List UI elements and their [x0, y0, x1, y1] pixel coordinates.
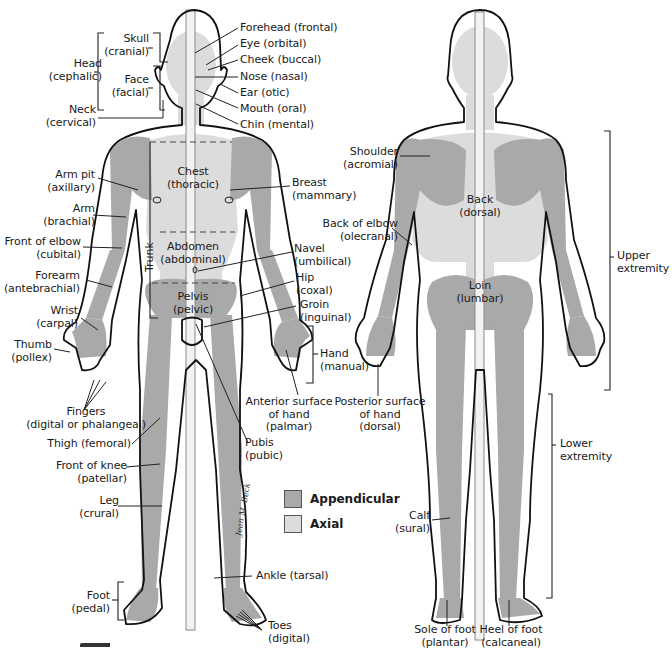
label-heel: Heel of foot (calcaneal)	[476, 624, 546, 649]
label-groin-sub: (inguinal)	[300, 312, 351, 325]
label-sole-title: Sole of foot	[410, 624, 480, 637]
label-abdomen-sub: (abdominal)	[158, 254, 228, 267]
label-upper-extremity-sub: extremity	[617, 263, 669, 276]
legend: Appendicular Axial	[284, 490, 400, 540]
label-leg-title: Leg	[79, 495, 119, 508]
label-arm: Arm (brachial)	[43, 203, 95, 228]
label-heel-title: Heel of foot	[476, 624, 546, 637]
label-forearm-sub: (antebrachial)	[4, 283, 80, 296]
label-pelvis-sub: (pelvic)	[163, 304, 223, 317]
label-hand-title: Hand	[320, 348, 369, 361]
label-hip-title: Hip	[296, 272, 333, 285]
label-hip: Hip (coxal)	[296, 272, 333, 297]
label-front-knee-sub: (patellar)	[56, 473, 127, 486]
label-lower-extremity-title: Lower	[560, 438, 612, 451]
label-head: Head (cephalic)	[49, 58, 102, 83]
label-face-title: Face	[112, 74, 149, 87]
label-pelvis-title: Pelvis	[163, 291, 223, 304]
label-fingers-title: Fingers	[26, 406, 146, 419]
label-leg-sub: (crural)	[79, 508, 119, 521]
label-leg: Leg (crural)	[79, 495, 119, 520]
label-calf-title: Calf	[395, 510, 430, 523]
label-eye: Eye (orbital)	[240, 38, 306, 51]
label-foot-sub: (pedal)	[72, 603, 110, 616]
label-pubis-title: Pubis	[245, 437, 283, 450]
figures-artwork: .app { fill: #a9a9a9; } .ax { fill: #dcd…	[0, 0, 672, 651]
label-front-elbow-title: Front of elbow	[4, 236, 81, 249]
label-arm-sub: (brachial)	[43, 216, 95, 229]
label-face-sub: (facial)	[112, 87, 149, 100]
label-front-elbow-sub: (cubital)	[4, 249, 81, 262]
label-calf: Calf (sural)	[395, 510, 430, 535]
label-pelvis: Pelvis (pelvic)	[163, 291, 223, 316]
label-foot: Foot (pedal)	[72, 590, 110, 615]
label-forearm-title: Forearm	[4, 270, 80, 283]
label-anterior-hand: Anterior surface of hand (palmar)	[244, 396, 334, 434]
label-front-elbow: Front of elbow (cubital)	[4, 236, 81, 261]
label-back-elbow-title: Back of elbow	[322, 218, 398, 231]
label-breast-sub: (mammary)	[292, 190, 356, 203]
label-breast: Breast (mammary)	[292, 177, 356, 202]
label-fingers: Fingers (digital or phalangeal)	[26, 406, 146, 431]
legend-label-axial: Axial	[310, 517, 343, 531]
label-abdomen-title: Abdomen	[158, 241, 228, 254]
label-armpit-sub: (axillary)	[47, 182, 95, 195]
posterior-figure	[356, 10, 605, 640]
label-head-sub: (cephalic)	[49, 71, 102, 84]
label-ankle: Ankle (tarsal)	[256, 570, 328, 583]
body-regions-diagram: .app { fill: #a9a9a9; } .ax { fill: #dcd…	[0, 0, 672, 651]
appendicular-swatch	[284, 490, 302, 508]
label-sole: Sole of foot (plantar)	[410, 624, 480, 649]
label-thumb-title: Thumb	[11, 339, 52, 352]
label-fingers-sub: (digital or phalangeal)	[26, 419, 146, 432]
label-abdomen: Abdomen (abdominal)	[158, 241, 228, 266]
label-neck-sub: (cervical)	[46, 117, 96, 130]
publisher-logo-icon	[80, 643, 110, 647]
label-pubis-sub: (pubic)	[245, 450, 283, 463]
label-loin-sub: (lumbar)	[450, 293, 510, 306]
label-nose: Nose (nasal)	[240, 71, 308, 84]
legend-item-axial: Axial	[284, 515, 400, 533]
label-wrist: Wrist (carpal)	[36, 305, 78, 330]
label-back: Back (dorsal)	[450, 194, 510, 219]
label-hand: Hand (manual)	[320, 348, 369, 373]
label-face: Face (facial)	[112, 74, 149, 99]
label-ear: Ear (otic)	[240, 87, 289, 100]
label-forearm: Forearm (antebrachial)	[4, 270, 80, 295]
label-loin-title: Loin	[450, 280, 510, 293]
label-forehead: Forehead (frontal)	[240, 22, 337, 35]
label-mouth: Mouth (oral)	[240, 103, 306, 116]
label-navel: Navel (umbilical)	[294, 243, 351, 268]
label-thumb: Thumb (pollex)	[11, 339, 52, 364]
label-skull-sub: (cranial)	[104, 46, 149, 59]
label-toes: Toes (digital)	[268, 620, 310, 645]
label-loin: Loin (lumbar)	[450, 280, 510, 305]
label-foot-title: Foot	[72, 590, 110, 603]
label-posterior-hand-l1: Posterior surface	[332, 396, 428, 409]
label-chest: Chest (thoracic)	[163, 166, 223, 191]
label-chest-sub: (thoracic)	[163, 179, 223, 192]
label-skull: Skull (cranial)	[104, 33, 149, 58]
label-hip-sub: (coxal)	[296, 285, 333, 298]
label-chest-title: Chest	[163, 166, 223, 179]
legend-label-appendicular: Appendicular	[310, 492, 400, 506]
label-armpit: Arm pit (axillary)	[47, 169, 95, 194]
label-posterior-hand-l3: (dorsal)	[332, 421, 428, 434]
label-arm-title: Arm	[43, 203, 95, 216]
label-front-knee-title: Front of knee	[56, 460, 127, 473]
label-sole-sub: (plantar)	[410, 637, 480, 650]
label-navel-sub: (umbilical)	[294, 256, 351, 269]
label-toes-title: Toes	[268, 620, 310, 633]
label-shoulder-title: Shoulder	[343, 146, 398, 159]
label-back-sub: (dorsal)	[450, 207, 510, 220]
label-thigh: Thigh (femoral)	[47, 438, 131, 451]
label-skull-title: Skull	[104, 33, 149, 46]
label-upper-extremity-title: Upper	[617, 250, 669, 263]
label-hand-sub: (manual)	[320, 361, 369, 374]
label-trunk: Trunk	[143, 242, 156, 272]
label-groin-title: Groin	[300, 299, 351, 312]
axial-swatch	[284, 515, 302, 533]
label-groin: Groin (inguinal)	[300, 299, 351, 324]
label-back-elbow: Back of elbow (olecranal)	[322, 218, 398, 243]
label-lower-extremity: Lower extremity	[560, 438, 612, 463]
